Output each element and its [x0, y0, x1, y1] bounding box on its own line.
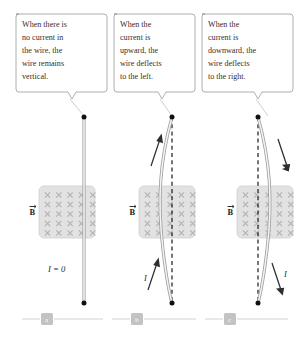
- current-label-b: I: [143, 273, 148, 283]
- panel-chip-a-label: a: [45, 316, 48, 323]
- callout-a-line-4: vertical.: [22, 72, 48, 81]
- panel-chip-c-label: c: [228, 316, 231, 323]
- current-arrow-c-lower: I: [272, 263, 288, 295]
- current-arrow-c-upper: [278, 139, 290, 172]
- field-region-a: [39, 186, 95, 238]
- callout-a-line-3: wire remains: [22, 59, 64, 68]
- field-label-c-text: B: [228, 208, 234, 217]
- callout-a: When there is no current in the wire, th…: [16, 14, 107, 99]
- terminal-bottom-c: [256, 301, 261, 306]
- field-label-b: B: [130, 205, 137, 217]
- callout-c-line-2: downward, the: [208, 46, 257, 55]
- terminal-bottom-b: [170, 301, 175, 306]
- terminal-top-a: [82, 115, 87, 120]
- field-region-c: [237, 186, 293, 238]
- callout-b-line-2: upward, the: [120, 46, 159, 55]
- callout-a-line-2: the wire, the: [22, 46, 63, 55]
- panel-b: When the current is upward, the wire def…: [114, 14, 195, 306]
- callout-a-line-1: no current in: [22, 33, 63, 42]
- leader-a: [70, 99, 84, 116]
- callout-b: When the current is upward, the wire def…: [114, 14, 195, 99]
- callout-c-line-0: When the: [208, 20, 240, 29]
- terminal-top-b: [170, 115, 175, 120]
- callout-b-line-3: wire deflects: [120, 59, 162, 68]
- terminal-bottom-a: [82, 301, 87, 306]
- leader-c: [256, 99, 268, 116]
- field-label-c: B: [228, 205, 235, 217]
- current-arrow-b-lower: I: [143, 258, 160, 290]
- figure-canvas: When there is no current in the wire, th…: [0, 0, 307, 340]
- field-label-a: B: [30, 205, 37, 217]
- panel-c: When the current is downward, the wire d…: [202, 14, 293, 306]
- field-label-a-text: B: [30, 208, 36, 217]
- field-region-b: [139, 186, 195, 238]
- callout-a-line-0: When there is: [22, 20, 67, 29]
- panel-chip-row: a b c: [22, 313, 288, 325]
- physics-figure: When there is no current in the wire, th…: [0, 0, 307, 340]
- callout-b-line-1: current is: [120, 33, 150, 42]
- panel-chip-a: a: [22, 313, 103, 325]
- callout-b-line-0: When the: [120, 20, 152, 29]
- panel-a: When there is no current in the wire, th…: [16, 14, 107, 306]
- terminal-top-c: [256, 115, 261, 120]
- leader-b: [160, 99, 172, 116]
- callout-c-line-1: current is: [208, 33, 238, 42]
- callout-c-line-4: to the right.: [208, 72, 246, 81]
- current-label-a: I = 0: [47, 264, 66, 274]
- callout-c: When the current is downward, the wire d…: [202, 14, 293, 99]
- panel-chip-c: c: [205, 313, 288, 325]
- current-arrow-b-upper: [151, 134, 163, 166]
- callout-c-line-3: wire deflects: [208, 59, 250, 68]
- current-label-c: I: [283, 269, 288, 279]
- field-label-b-text: B: [130, 208, 136, 217]
- panel-chip-b: b: [112, 313, 196, 325]
- callout-b-line-4: to the left.: [120, 72, 153, 81]
